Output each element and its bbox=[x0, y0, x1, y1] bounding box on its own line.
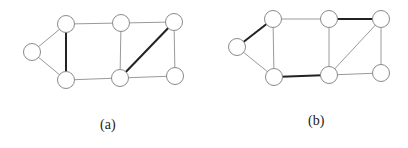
node-L bbox=[229, 39, 246, 56]
node-BM bbox=[112, 70, 129, 87]
node-TL bbox=[265, 11, 282, 28]
node-BL bbox=[266, 69, 283, 86]
node-BL bbox=[58, 72, 75, 89]
caption-b: (b) bbox=[308, 113, 324, 129]
node-BR bbox=[167, 68, 184, 85]
edge-BM-TR-matched bbox=[120, 22, 174, 78]
node-TR bbox=[166, 14, 183, 31]
caption-a: (a) bbox=[100, 117, 116, 133]
panel-a-graph bbox=[24, 14, 184, 89]
node-TL bbox=[58, 16, 75, 33]
node-BM bbox=[321, 67, 338, 84]
node-BR bbox=[373, 65, 390, 82]
node-TR bbox=[373, 11, 390, 28]
node-TM bbox=[321, 11, 338, 28]
panel-b-graph bbox=[229, 11, 390, 86]
node-TM bbox=[113, 15, 130, 32]
edge-BM-TR bbox=[329, 19, 381, 75]
node-L bbox=[24, 44, 41, 61]
graph-diagram bbox=[0, 0, 408, 148]
